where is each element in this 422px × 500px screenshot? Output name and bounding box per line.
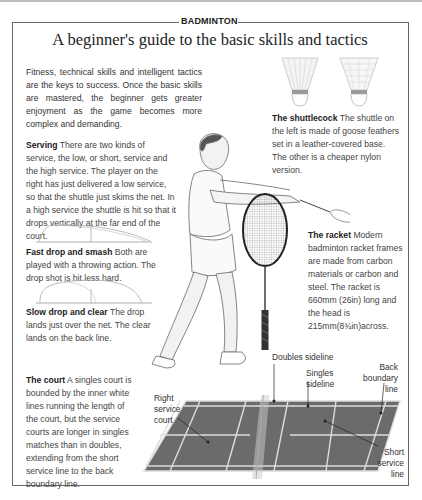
racket-heading: The racket	[308, 230, 351, 240]
racket-paragraph: The racket Modern badminton racket frame…	[308, 229, 404, 333]
frame-top-rule-right	[238, 22, 408, 23]
slow-drop-paragraph: Slow drop and clear The drop lands just …	[26, 306, 166, 345]
short-service-line-label: Short service line	[370, 447, 404, 480]
frame-top-rule-left	[12, 22, 179, 23]
fast-drop-trajectory-diagram	[34, 222, 154, 244]
fast-drop-heading: Fast drop and smash	[26, 247, 112, 257]
page-top-rule	[0, 0, 422, 2]
court-body: A singles court is bounded by the inner …	[26, 375, 132, 489]
singles-sideline-label: Singles sideline	[306, 368, 334, 390]
right-service-court-label: Right service court	[154, 393, 181, 426]
slow-drop-trajectory-diagram	[34, 277, 154, 305]
racket-body: Modern badminton racket frames are made …	[308, 230, 403, 331]
serving-heading: Serving	[26, 140, 58, 150]
section-label: BADMINTON	[181, 16, 237, 26]
court-heading: The court	[26, 375, 65, 385]
slow-drop-heading: Slow drop and clear	[26, 307, 108, 317]
intro-paragraph: Fitness, technical skills and intelligen…	[26, 66, 202, 131]
feather-shuttlecock-illustration	[280, 56, 320, 108]
page-title: A beginner's guide to the basic skills a…	[12, 30, 408, 50]
racket-illustration	[240, 192, 290, 352]
back-boundary-line-label: Back boundary line	[352, 362, 398, 395]
nylon-shuttlecock-illustration	[338, 56, 380, 108]
court-paragraph: The court A singles court is bounded by …	[26, 374, 136, 491]
doubles-sideline-label: Doubles sideline	[272, 352, 333, 363]
shuttlecock-heading: The shuttlecock	[272, 113, 337, 123]
